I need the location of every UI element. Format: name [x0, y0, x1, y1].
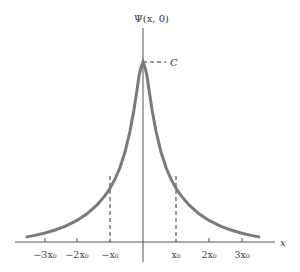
tick-label-2x0: 2x₀ [201, 249, 216, 260]
tick-label-neg-3x0: −3x₀ [33, 249, 56, 260]
tick-label-neg-2x0: −2x₀ [65, 249, 88, 260]
tick-label-3x0: 3x₀ [234, 249, 249, 260]
y-axis-label: Ψ(x, 0) [134, 13, 169, 24]
tick-label-x0: x₀ [171, 249, 180, 260]
tick-label-neg-x0: −x₀ [101, 249, 118, 260]
peak-label-C: C [170, 57, 178, 68]
wavefunction-diagram: Ψ(x, 0) C x −3x₀ −2x₀ −x₀ x₀ 2x₀ 3x₀ [0, 0, 300, 272]
x-axis-label: x [280, 237, 286, 248]
